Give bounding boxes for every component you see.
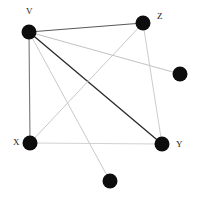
- graph-node-unlabeled-5[interactable]: [103, 174, 118, 189]
- graph-edge-x-y: [30, 143, 162, 144]
- graph-canvas: VZXY: [0, 0, 198, 203]
- graph-figure: VZXY: [0, 0, 198, 203]
- graph-edge-v-x: [29, 32, 30, 143]
- graph-edge-v-y: [29, 32, 162, 144]
- graph-node-y[interactable]: [155, 137, 170, 152]
- graph-node-label-x: X: [13, 137, 20, 147]
- graph-node-x[interactable]: [23, 136, 38, 151]
- label-layer: VZXY: [13, 6, 183, 149]
- graph-edge-v-r: [29, 32, 180, 74]
- graph-node-z[interactable]: [136, 16, 151, 31]
- graph-edge-z-x: [30, 23, 143, 143]
- graph-edge-z-y: [143, 23, 162, 144]
- node-layer: [22, 16, 188, 189]
- graph-node-unlabeled-2[interactable]: [173, 67, 188, 82]
- graph-edge-v-z: [29, 23, 143, 32]
- edge-layer: [29, 23, 180, 181]
- graph-node-v[interactable]: [22, 25, 37, 40]
- graph-node-label-y: Y: [176, 139, 183, 149]
- graph-node-label-z: Z: [157, 11, 163, 21]
- graph-edge-v-b: [29, 32, 110, 181]
- graph-node-label-v: V: [26, 6, 33, 16]
